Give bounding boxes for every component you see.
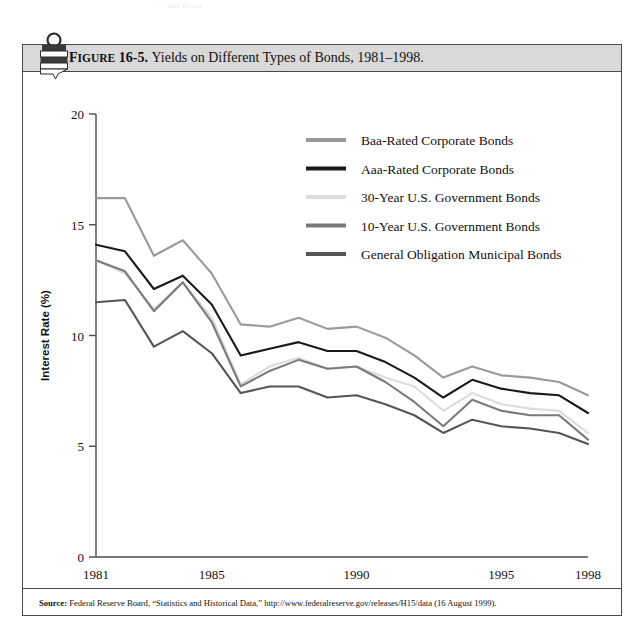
y-tick-label: 5: [78, 439, 85, 454]
page-top-cropped-text: mic Bonds: [168, 2, 203, 10]
x-tick-label: 1990: [343, 567, 369, 582]
figure-title-text: FIGURE 16-5. Yields on Different Types o…: [69, 50, 424, 66]
series-line: [96, 300, 588, 444]
figure-label-prefix: F: [69, 50, 78, 65]
legend-label: Aaa-Rated Corporate Bonds: [361, 162, 514, 177]
legend-label: General Obligation Municipal Bonds: [361, 247, 562, 262]
y-tick-label: 15: [71, 218, 84, 233]
figure-label: FIGURE 16-5.: [69, 50, 151, 65]
figure-frame: FIGURE 16-5. Yields on Different Types o…: [22, 44, 622, 616]
source-note: Source: Federal Reserve Board, “Statisti…: [39, 598, 611, 608]
series-line: [96, 260, 588, 433]
figure-title-caption: Yields on Different Types of Bonds, 1981…: [151, 50, 423, 65]
source-divider: [23, 588, 621, 589]
source-label: Source:: [39, 598, 67, 608]
y-tick-label: 0: [78, 550, 85, 565]
figure-label-smallcaps: IGURE: [78, 52, 116, 64]
legend-label: 30-Year U.S. Government Bonds: [361, 190, 540, 205]
legend-label: 10-Year U.S. Government Bonds: [361, 219, 540, 234]
source-text: Federal Reserve Board, “Statistics and H…: [69, 598, 496, 608]
plot-area: 0510152019811985199019951998Interest Rat…: [23, 72, 621, 615]
series-line: [96, 245, 588, 413]
figure-label-number: 16-5.: [115, 50, 148, 65]
y-tick-label: 10: [71, 329, 84, 344]
y-tick-label: 20: [71, 107, 84, 122]
series-line: [96, 260, 588, 439]
x-tick-label: 1981: [83, 567, 109, 582]
bond-yields-line-chart: 0510152019811985199019951998Interest Rat…: [23, 72, 621, 590]
legend-label: Baa-Rated Corporate Bonds: [361, 133, 513, 148]
x-tick-label: 1985: [199, 567, 225, 582]
y-axis-title: Interest Rate (%): [39, 290, 51, 381]
x-tick-label: 1998: [575, 567, 601, 582]
figure-page: mic Bonds FIGURE 16-5. Yields on Differe…: [0, 0, 644, 643]
x-tick-label: 1995: [488, 567, 514, 582]
